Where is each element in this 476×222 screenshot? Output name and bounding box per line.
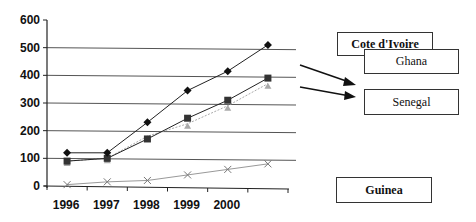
triangle-marker-icon: [224, 105, 231, 111]
series-guinea: [64, 160, 272, 188]
gridline: [47, 75, 296, 77]
x-tick-label: 1997: [93, 198, 120, 212]
diamond-marker-icon: [63, 149, 71, 157]
annotation-arrows: [300, 65, 356, 100]
y-tick-label: 400: [20, 68, 40, 82]
y-axis-ticks: 0100200300400500600: [20, 13, 47, 193]
x-axis-ticks: 19961997199819992000: [47, 186, 288, 212]
label-senegal: Senegal: [364, 89, 459, 115]
label-ghana: Ghana: [364, 49, 459, 74]
diamond-marker-icon: [264, 41, 272, 49]
square-marker-icon: [64, 158, 71, 165]
x-tick-label: 1999: [173, 198, 200, 212]
gridline: [47, 48, 296, 50]
triangle-marker-icon: [184, 123, 191, 129]
arrow-to-ghana: [300, 65, 352, 83]
triangle-marker-icon: [264, 83, 271, 89]
y-tick-label: 500: [20, 41, 40, 55]
x-tick-label: 2000: [213, 198, 240, 212]
series-senegal: [64, 83, 272, 166]
y-tick-label: 300: [20, 96, 40, 110]
gridline: [47, 131, 296, 133]
y-tick-label: 100: [20, 151, 40, 165]
data-series: [63, 41, 272, 188]
y-tick-label: 0: [33, 179, 40, 193]
arrowhead-icon: [344, 91, 356, 100]
arrowhead-icon: [343, 77, 356, 86]
square-marker-icon: [224, 97, 231, 104]
x-tick-label: 1996: [53, 198, 80, 212]
square-marker-icon: [184, 115, 191, 122]
square-marker-icon: [144, 135, 151, 142]
y-tick-label: 600: [20, 13, 40, 27]
diamond-marker-icon: [224, 67, 232, 75]
gridlines: [47, 48, 296, 161]
square-marker-icon: [264, 75, 271, 82]
x-tick-label: 1998: [133, 198, 160, 212]
arrow-to-senegal: [300, 87, 350, 96]
series-ghana: [64, 75, 272, 165]
label-guinea: Guinea: [336, 177, 432, 203]
y-tick-label: 200: [20, 124, 40, 138]
x-axis: [44, 186, 289, 189]
